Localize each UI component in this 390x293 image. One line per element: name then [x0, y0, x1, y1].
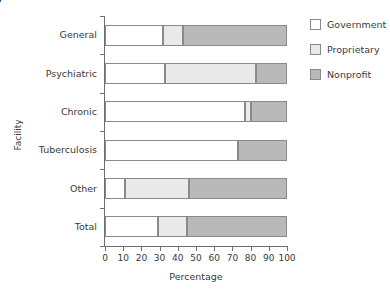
legend-swatch-government	[310, 19, 321, 30]
x-axis-tick	[160, 247, 161, 251]
legend-label: Government	[327, 19, 386, 30]
x-axis-tick	[178, 247, 179, 251]
bar-segment-nonprofit	[189, 178, 287, 199]
y-axis-category-label: General	[60, 30, 97, 40]
x-axis-tick	[287, 247, 288, 251]
x-axis-tick	[105, 247, 106, 251]
bar-segment-proprietary	[165, 63, 256, 84]
bar-segment-nonprofit	[256, 63, 287, 84]
bar-segment-nonprofit	[238, 140, 287, 161]
bar-segment-nonprofit	[187, 216, 287, 237]
x-axis-tick	[123, 247, 124, 251]
x-axis-title: Percentage	[105, 271, 287, 282]
x-axis-tick	[232, 247, 233, 251]
bar-segment-proprietary	[125, 178, 189, 199]
bar-segment-proprietary	[158, 216, 187, 237]
bar-segment-government	[105, 178, 125, 199]
plot-area	[105, 16, 287, 246]
bar-row	[105, 25, 287, 46]
legend-swatch-proprietary	[310, 44, 321, 55]
legend-item: Nonprofit	[310, 68, 390, 80]
bar-segment-government	[105, 25, 163, 46]
bar-segment-nonprofit	[183, 25, 287, 46]
y-axis-category-label: Psychiatric	[46, 69, 97, 79]
x-axis-tick-label: 100	[272, 253, 302, 263]
x-axis-tick	[214, 247, 215, 251]
y-axis-title: Facility	[13, 105, 23, 165]
bar-segment-nonprofit	[251, 101, 287, 122]
bar-segment-government	[105, 101, 245, 122]
x-axis-tick	[251, 247, 252, 251]
bar-segment-government	[105, 140, 238, 161]
y-axis-category-label: Total	[75, 222, 97, 232]
bar-row	[105, 178, 287, 199]
bar-segment-government	[105, 63, 165, 84]
y-axis-category-label: Other	[70, 184, 97, 194]
bar-segment-proprietary	[163, 25, 183, 46]
x-axis-tick	[141, 247, 142, 251]
legend-label: Nonprofit	[327, 69, 371, 80]
bar-row	[105, 216, 287, 237]
chart-legend: GovernmentProprietaryNonprofit	[310, 18, 390, 93]
legend-label: Proprietary	[327, 44, 380, 55]
bar-row	[105, 63, 287, 84]
legend-swatch-nonprofit	[310, 69, 321, 80]
bar-row	[105, 140, 287, 161]
bar-segment-government	[105, 216, 158, 237]
x-axis-tick	[196, 247, 197, 251]
x-axis-tick	[269, 247, 270, 251]
y-axis-category-label: Tuberculosis	[39, 145, 97, 155]
stacked-bar-chart: Facility Percentage GeneralPsychiatricCh…	[0, 0, 390, 293]
legend-item: Government	[310, 18, 390, 30]
legend-item: Proprietary	[310, 43, 390, 55]
y-axis-category-label: Chronic	[61, 107, 97, 117]
bar-row	[105, 101, 287, 122]
